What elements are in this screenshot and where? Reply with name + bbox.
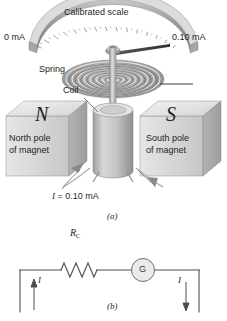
resistor-subscript-text: C xyxy=(76,232,80,239)
circuit-current-right-label: I xyxy=(178,276,181,285)
circuit-current-left-label: I xyxy=(38,276,41,285)
galvanometer-label: G xyxy=(139,265,146,274)
resistor-symbol-zigzag xyxy=(61,263,97,277)
scale-title-label: Calibrated scale xyxy=(64,8,129,17)
scale-minor-ticks xyxy=(39,27,171,45)
galvanometer-illustration xyxy=(0,0,227,195)
north-pole-letter: N xyxy=(35,104,48,124)
south-pole-label-line2: of magnet xyxy=(146,146,186,155)
galvanometer-figure: Calibrated scale 0 mA 0.10 mA Spring Coi… xyxy=(0,0,227,321)
coil-label: Coil xyxy=(63,86,79,95)
scale-ticks xyxy=(35,27,175,49)
spiral-spring xyxy=(62,60,193,98)
north-pole-label-line2: of magnet xyxy=(9,146,49,155)
north-pole-label-line1: North pole xyxy=(9,134,51,143)
south-pole-label-line1: South pole xyxy=(146,134,189,143)
south-pole-letter: S xyxy=(166,104,176,124)
scale-max-label: 0.10 mA xyxy=(172,33,206,42)
scale-min-label: 0 mA xyxy=(4,33,25,42)
panel-b-caption: (b) xyxy=(107,302,118,311)
resistor-label: RC xyxy=(70,228,80,240)
coil-cylinder xyxy=(93,103,133,182)
rotation-shaft xyxy=(110,48,117,110)
spring-label: Spring xyxy=(39,65,65,74)
